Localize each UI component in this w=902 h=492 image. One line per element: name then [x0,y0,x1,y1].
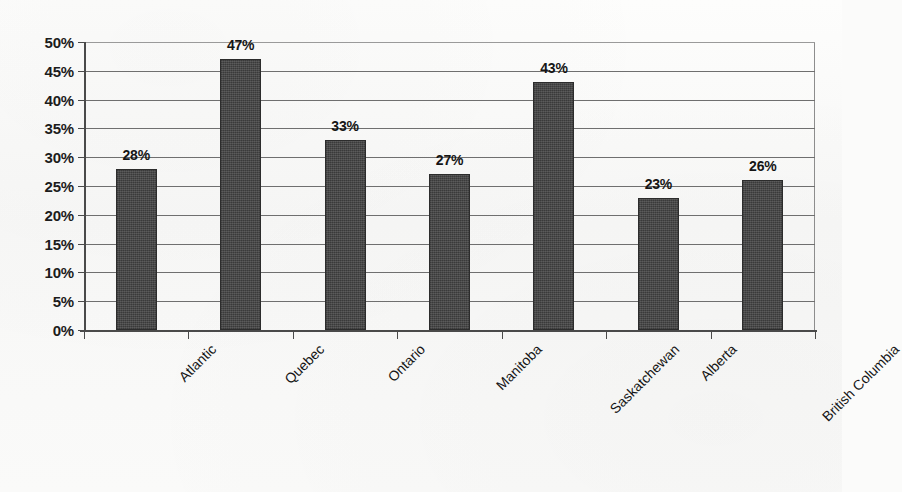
y-axis-tick-label: 45% [0,62,74,79]
bar-value-label: 43% [540,60,567,76]
bar-value-label: 28% [122,147,149,163]
x-axis-tick-mark [293,331,294,339]
y-axis-tick-label: 5% [0,293,74,310]
x-axis-category-label: Quebec [281,341,327,387]
gridline [84,42,815,43]
y-axis-tick-label: 30% [0,149,74,166]
gridline [84,100,815,101]
x-axis-category-label: Atlantic [176,341,220,385]
plot-area [84,42,815,330]
x-axis-tick-mark [397,331,398,339]
bar [533,82,574,330]
x-axis-category-label: Manitoba [492,341,544,393]
gridline [84,71,815,72]
x-axis-category-label: Ontario [385,341,429,385]
bar-value-label: 26% [749,158,776,174]
x-axis-tick-mark [711,331,712,339]
x-axis-tick-mark [188,331,189,339]
y-axis-tick-label: 50% [0,34,74,51]
x-axis-tick-mark [502,331,503,339]
gridline [84,128,815,129]
y-axis-line [84,42,86,331]
y-axis-tick-label: 35% [0,120,74,137]
bar [429,174,470,330]
bar [325,140,366,330]
bar-value-label: 33% [331,118,358,134]
x-axis-category-label: Saskatchewan [607,341,683,417]
y-axis-tick-label: 25% [0,178,74,195]
bar [742,180,783,330]
x-axis-category-label: British Columbia [819,341,902,424]
y-axis-tick-label: 0% [0,322,74,339]
bar [638,198,679,330]
x-axis-tick-mark [606,331,607,339]
bar [220,59,261,330]
x-axis-tick-mark [84,331,85,339]
bar [116,169,157,330]
x-axis-category-label: Alberta [697,341,740,384]
bar-value-label: 47% [227,37,254,53]
x-axis-line [80,330,817,332]
y-axis-tick-label: 20% [0,206,74,223]
bar-value-label: 23% [645,176,672,192]
bar-value-label: 27% [436,152,463,168]
x-axis-tick-mark [815,331,816,339]
y-axis-tick-label: 10% [0,264,74,281]
y-axis-tick-label: 40% [0,91,74,108]
y-axis-tick-label: 15% [0,235,74,252]
